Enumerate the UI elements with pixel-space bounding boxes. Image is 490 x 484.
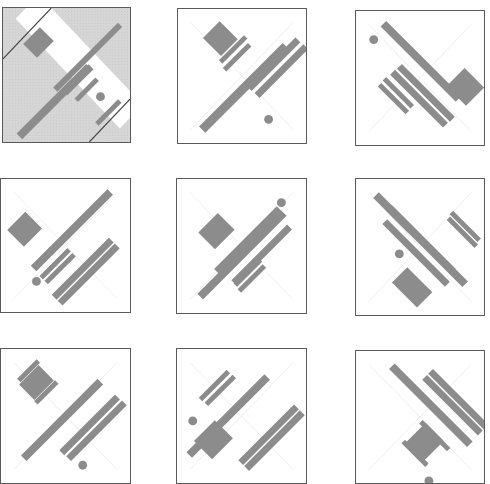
matrix-tile[interactable] (176, 348, 307, 484)
dot-shape (277, 198, 286, 207)
matrix-tile[interactable] (177, 8, 307, 144)
tile-figure (356, 11, 484, 145)
bar-shape (244, 410, 305, 471)
block-shape (19, 365, 54, 400)
tile-figure (356, 351, 484, 483)
tile-figure (1, 179, 130, 312)
bar-shape (199, 43, 289, 133)
bar-shape (428, 369, 484, 430)
matrix-tile[interactable] (355, 350, 485, 484)
matrix-tile[interactable] (355, 178, 485, 316)
tile-figure (1, 349, 130, 483)
tile-figure (3, 8, 130, 142)
block-shape (446, 68, 484, 106)
tile-figure (178, 9, 306, 143)
dot-shape (264, 115, 273, 124)
dot-shape (424, 477, 433, 483)
bar-shape (214, 206, 282, 274)
bar-shape (59, 395, 120, 456)
block-shape (194, 420, 233, 459)
dot-shape (32, 277, 41, 286)
dot-shape (78, 461, 87, 470)
dot-shape (369, 35, 378, 44)
matrix-tile[interactable] (2, 7, 131, 143)
dot-shape (188, 416, 197, 425)
bar-shape (388, 206, 456, 274)
dot-shape (96, 92, 105, 101)
block-shape (198, 213, 234, 249)
matrix-tile[interactable] (355, 10, 485, 146)
dot-shape (395, 249, 404, 258)
tile-figure (356, 179, 484, 315)
block-shape (392, 267, 432, 307)
matrix-tile[interactable] (0, 178, 131, 313)
tile-figure (177, 349, 306, 483)
bar-shape (238, 404, 299, 465)
tile-figure (177, 179, 306, 313)
matrix-tile[interactable] (176, 178, 307, 314)
block-shape (7, 212, 42, 247)
matrix-tile[interactable] (0, 348, 131, 484)
